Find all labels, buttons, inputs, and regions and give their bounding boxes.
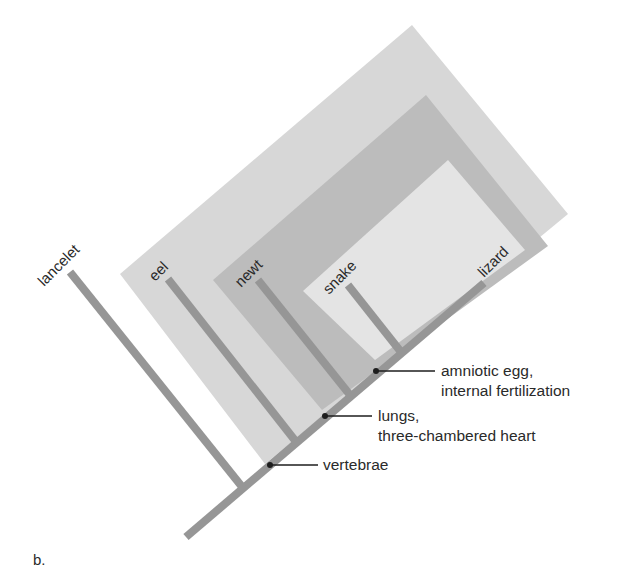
cladogram-figure: lancelet eel newt snake lizard vertebrae… bbox=[0, 0, 628, 571]
trait-label-lungs-line1: lungs, bbox=[378, 407, 419, 424]
trait-annotation-amniotic: amniotic egg, internal fertilization bbox=[373, 362, 570, 399]
trait-label-lungs-line2: three-chambered heart bbox=[378, 427, 536, 444]
trait-annotation-lungs: lungs, three-chambered heart bbox=[322, 407, 536, 444]
trait-label-vertebrae: vertebrae bbox=[323, 456, 388, 473]
trait-label-amniotic-line1: amniotic egg, bbox=[441, 362, 533, 379]
trait-label-amniotic-line2: internal fertilization bbox=[441, 382, 570, 399]
panel-label: b. bbox=[33, 551, 46, 568]
trait-annotation-vertebrae: vertebrae bbox=[267, 456, 388, 473]
